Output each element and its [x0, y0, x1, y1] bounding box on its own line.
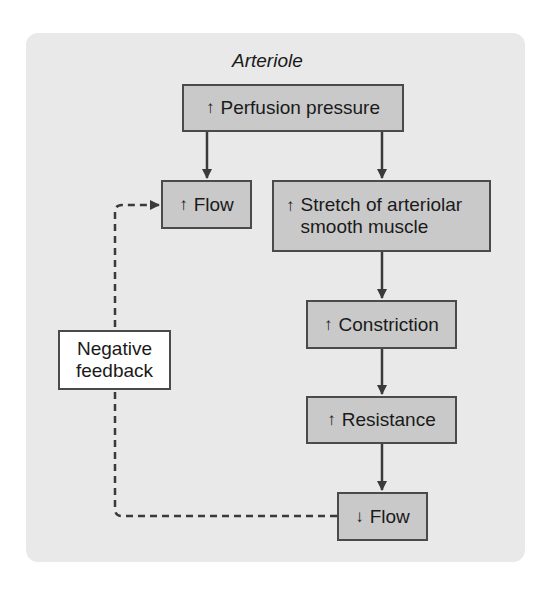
node-label-line2: smooth muscle — [301, 216, 463, 238]
node-constriction: ↑ Constriction — [306, 300, 457, 349]
node-label: Constriction — [339, 314, 439, 336]
node-label: Flow — [370, 506, 410, 528]
node-label: Flow — [194, 194, 234, 216]
node-label: Resistance — [342, 409, 436, 431]
node-stretch-smooth-muscle: ↑ Stretch of arteriolar smooth muscle — [272, 180, 491, 252]
node-flow-increase: ↑ Flow — [161, 180, 252, 229]
node-flow-decrease: ↓ Flow — [337, 492, 428, 541]
node-label-line2: feedback — [76, 360, 153, 382]
up-arrow-icon: ↑ — [286, 195, 295, 217]
up-arrow-icon: ↑ — [206, 97, 215, 119]
node-perfusion-pressure: ↑ Perfusion pressure — [182, 84, 404, 132]
down-arrow-icon: ↓ — [355, 506, 364, 528]
up-arrow-icon: ↑ — [179, 194, 188, 216]
node-label-line1: Negative — [77, 338, 152, 360]
node-negative-feedback: Negative feedback — [58, 330, 171, 390]
node-resistance: ↑ Resistance — [306, 396, 457, 444]
node-label-line1: Stretch of arteriolar — [301, 194, 463, 216]
node-label: Perfusion pressure — [221, 97, 380, 119]
up-arrow-icon: ↑ — [327, 409, 336, 431]
up-arrow-icon: ↑ — [324, 314, 333, 336]
